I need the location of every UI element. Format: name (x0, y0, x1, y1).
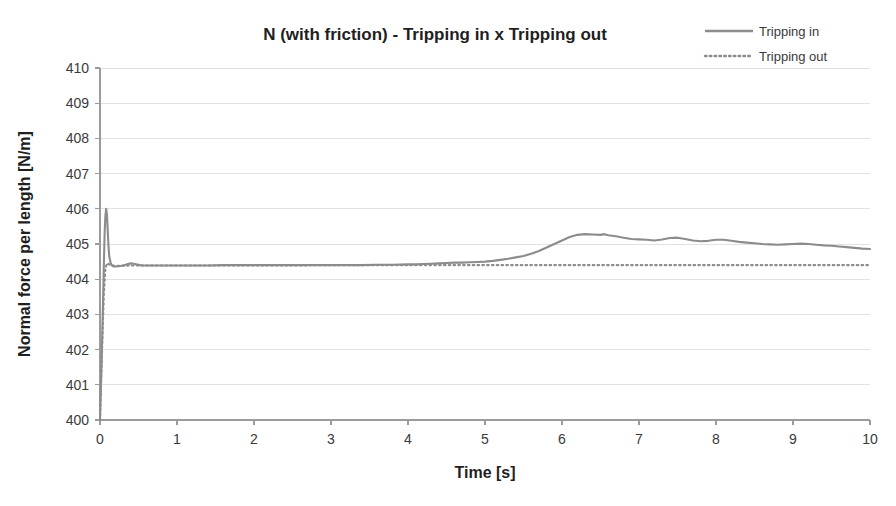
chart-title: N (with friction) - Tripping in x Trippi… (263, 25, 607, 44)
x-tick-label: 10 (862, 431, 878, 447)
y-tick-label: 403 (66, 306, 90, 322)
x-tick-label: 2 (250, 431, 258, 447)
y-axis-title: Normal force per length [N/m] (16, 131, 33, 357)
chart-canvas: N (with friction) - Tripping in x Trippi… (0, 0, 896, 506)
y-tick-label: 404 (66, 271, 90, 287)
y-tick-label: 400 (66, 412, 90, 428)
x-tick-label: 8 (712, 431, 720, 447)
y-tick-label: 405 (66, 236, 90, 252)
x-tick-label: 1 (173, 431, 181, 447)
x-tick-label: 5 (481, 431, 489, 447)
x-axis-title: Time [s] (454, 464, 515, 481)
x-tick-label: 6 (558, 431, 566, 447)
x-tick-label: 4 (404, 431, 412, 447)
y-tick-label: 410 (66, 60, 90, 76)
y-tick-label: 407 (66, 166, 90, 182)
legend-label-tripping-in: Tripping in (759, 24, 819, 39)
x-tick-label: 7 (635, 431, 643, 447)
y-tick-label: 406 (66, 201, 90, 217)
x-tick-label: 9 (789, 431, 797, 447)
x-tick-label: 0 (96, 431, 104, 447)
y-tick-label: 409 (66, 95, 90, 111)
y-tick-label: 401 (66, 377, 90, 393)
x-tick-label: 3 (327, 431, 335, 447)
y-tick-label: 408 (66, 130, 90, 146)
legend-label-tripping-out: Tripping out (759, 49, 828, 64)
y-tick-label: 402 (66, 342, 90, 358)
